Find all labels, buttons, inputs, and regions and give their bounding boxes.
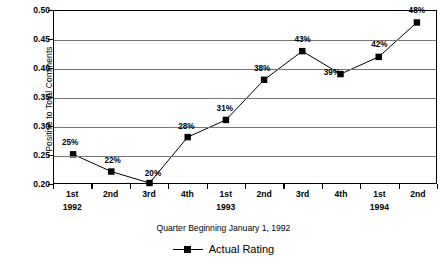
x-axis-tick-mark xyxy=(53,184,54,189)
data-point-marker xyxy=(223,117,229,123)
y-axis-tick-mark xyxy=(48,97,53,98)
data-point-marker xyxy=(414,19,420,25)
x-axis-tick-label: 1st xyxy=(357,190,401,199)
x-axis-tick-mark xyxy=(130,184,131,189)
x-axis-tick-mark xyxy=(322,184,323,189)
y-axis-tick-mark xyxy=(48,39,53,40)
y-axis-tick-label: 0.45 xyxy=(20,35,50,44)
x-axis-tick-mark xyxy=(437,184,438,189)
data-point-marker xyxy=(261,77,267,83)
x-axis-tick-mark xyxy=(207,184,208,189)
data-point-label: 28% xyxy=(178,122,194,130)
data-point-marker xyxy=(146,180,152,186)
data-point-marker xyxy=(375,54,381,60)
x-axis-tick-label: 2nd xyxy=(242,190,286,199)
x-axis-group-label: 1994 xyxy=(351,203,407,212)
y-axis-tick-label: 0.35 xyxy=(20,93,50,102)
data-point-label: 22% xyxy=(104,157,120,165)
data-point-label: 25% xyxy=(62,139,78,147)
y-axis-tick-label: 0.40 xyxy=(20,64,50,73)
x-axis-tick-label: 2nd xyxy=(89,190,133,199)
x-axis-tick-mark xyxy=(91,184,92,189)
legend-line-marker-icon xyxy=(173,244,203,254)
chart-legend: Actual Rating xyxy=(0,243,447,255)
x-axis-tick-label: 3rd xyxy=(281,190,325,199)
x-axis-tick-label: 1st xyxy=(204,190,248,199)
x-axis-tick-mark xyxy=(168,184,169,189)
y-axis-tick-mark xyxy=(48,68,53,69)
gridline xyxy=(54,98,436,99)
data-point-label: 48% xyxy=(409,6,425,14)
legend-item-label: Actual Rating xyxy=(209,243,274,255)
data-point-label: 39% xyxy=(324,69,340,77)
x-axis-tick-label: 4th xyxy=(165,190,209,199)
data-point-marker xyxy=(299,48,305,54)
x-axis-tick-mark xyxy=(245,184,246,189)
y-axis-tick-mark xyxy=(48,155,53,156)
gridline xyxy=(54,69,436,70)
y-axis-tick-mark xyxy=(48,126,53,127)
data-point-label: 31% xyxy=(217,105,233,113)
line-chart: Positive to Total Comments 0.500.450.400… xyxy=(0,0,447,272)
x-axis-tick-label: 2nd xyxy=(396,190,440,199)
data-point-label: 42% xyxy=(371,41,387,49)
data-point-label: 20% xyxy=(145,170,161,178)
x-axis-tick-label: 1st xyxy=(50,190,94,199)
gridline xyxy=(54,127,436,128)
y-axis-tick-mark xyxy=(48,10,53,11)
x-axis-tick-label: 3rd xyxy=(127,190,171,199)
x-axis-title: Quarter Beginning January 1, 1992 xyxy=(0,223,447,233)
x-axis-tick-label: 4th xyxy=(319,190,363,199)
legend-item-actual-rating: Actual Rating xyxy=(173,243,274,255)
data-point-label: 38% xyxy=(254,64,270,72)
data-point-label: 43% xyxy=(294,35,310,43)
x-axis-group-label: 1992 xyxy=(44,203,100,212)
data-point-marker xyxy=(108,168,114,174)
y-axis-tick-label: 0.20 xyxy=(20,180,50,189)
data-point-marker xyxy=(184,134,190,140)
x-axis-tick-mark xyxy=(360,184,361,189)
x-axis-group-label: 1993 xyxy=(198,203,254,212)
x-axis-tick-mark xyxy=(283,184,284,189)
x-axis-tick-mark xyxy=(399,184,400,189)
y-axis-tick-label: 0.50 xyxy=(20,6,50,15)
y-axis-tick-label: 0.30 xyxy=(20,122,50,131)
y-axis-tick-label: 0.25 xyxy=(20,151,50,160)
